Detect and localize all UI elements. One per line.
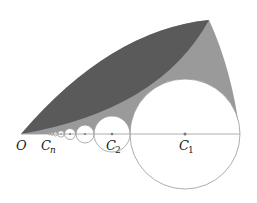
center-dot-c4 <box>69 133 71 135</box>
label-cn-subscript: n <box>50 145 56 155</box>
center-dot-c5 <box>60 133 62 135</box>
label-c2-subscript: 2 <box>115 145 121 155</box>
label-origin: O <box>16 138 27 153</box>
center-dot-c1 <box>184 133 187 136</box>
label-c1-subscript: 1 <box>188 145 194 155</box>
center-dot-c2 <box>111 133 114 136</box>
center-dot-c3 <box>84 133 86 135</box>
geometry-figure: O C n C 2 C 1 <box>0 0 257 203</box>
